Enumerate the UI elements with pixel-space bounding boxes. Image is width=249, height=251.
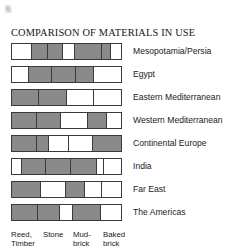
bar-segment-blank bbox=[94, 67, 121, 82]
bar-segment-blank bbox=[102, 182, 121, 197]
bar-segment-blank bbox=[104, 159, 121, 174]
legend-item: Mud- brick bbox=[73, 230, 91, 249]
material-bar bbox=[11, 158, 122, 175]
chart-row: Western Mediterranean bbox=[11, 112, 238, 135]
material-bar bbox=[11, 135, 122, 152]
chart-legend: Reed, TimberStoneMud- brickBaked brick bbox=[11, 230, 131, 251]
page-title: COMPARISON OF MATERIALS IN USE bbox=[11, 27, 195, 38]
chart-row: India bbox=[11, 158, 238, 181]
bar-segment-blank bbox=[12, 159, 22, 174]
bar-segment-filled bbox=[48, 44, 63, 59]
bar-segment-blank bbox=[60, 205, 73, 220]
bar-segment-filled bbox=[12, 136, 37, 151]
bar-segment-filled bbox=[52, 67, 76, 82]
chart-row: Egypt bbox=[11, 66, 238, 89]
bar-segment-filled bbox=[66, 182, 85, 197]
bar-segment-filled bbox=[46, 159, 71, 174]
material-bar bbox=[11, 89, 122, 106]
material-bar bbox=[11, 43, 122, 60]
bar-segment-blank bbox=[67, 90, 94, 105]
bar-segment-filled bbox=[93, 136, 121, 151]
bar-segment-blank bbox=[49, 136, 69, 151]
region-label: Far East bbox=[133, 181, 165, 198]
bar-segment-filled bbox=[29, 67, 52, 82]
bar-segment-blank bbox=[12, 44, 32, 59]
region-label: India bbox=[133, 158, 152, 175]
region-label: Western Mediterranean bbox=[133, 112, 223, 129]
bar-segment-filled bbox=[12, 90, 39, 105]
bar-segment-blank bbox=[12, 67, 29, 82]
bar-segment-filled bbox=[37, 136, 49, 151]
bar-segment-blank bbox=[61, 113, 88, 128]
bar-segment-blank bbox=[111, 44, 121, 59]
bar-segment-filled bbox=[71, 159, 97, 174]
bar-segment-filled bbox=[73, 205, 101, 220]
material-bar bbox=[11, 66, 122, 83]
region-label: The Americas bbox=[133, 204, 186, 221]
bar-segment-filled bbox=[38, 205, 60, 220]
chart-row: Eastern Mediterranean bbox=[11, 89, 238, 112]
material-bar bbox=[11, 181, 122, 198]
bar-segment-filled bbox=[12, 205, 38, 220]
bar-segment-filled bbox=[76, 67, 93, 82]
region-label: Mesopotamia/Persia bbox=[133, 43, 211, 60]
bar-segment-blank bbox=[63, 44, 75, 59]
chart-plot-area: Mesopotamia/PersiaEgyptEastern Mediterra… bbox=[11, 43, 238, 227]
region-label: Continental Europe bbox=[133, 135, 207, 152]
bar-segment-filled bbox=[12, 182, 41, 197]
legend-item: Reed, Timber bbox=[11, 230, 35, 249]
material-bar bbox=[11, 204, 122, 221]
region-label: Eastern Mediterranean bbox=[133, 89, 220, 106]
chart-row: Far East bbox=[11, 181, 238, 204]
bar-segment-blank bbox=[107, 113, 121, 128]
bar-segment-filled bbox=[12, 113, 37, 128]
bar-segment-filled bbox=[75, 44, 102, 59]
bar-segment-filled bbox=[22, 159, 46, 174]
bar-segment-blank bbox=[94, 90, 121, 105]
bar-segment-blank bbox=[41, 182, 66, 197]
legend-item: Stone bbox=[43, 230, 63, 239]
comparison-of-materials-figure: COMPARISON OF MATERIALS IN USE Mesopotam… bbox=[0, 0, 249, 251]
bar-segment-blank bbox=[69, 136, 93, 151]
bar-segment-filled bbox=[32, 44, 48, 59]
chart-row: Mesopotamia/Persia bbox=[11, 43, 238, 66]
bar-segment-filled bbox=[39, 90, 66, 105]
bar-segment-blank bbox=[101, 205, 121, 220]
bar-segment-filled bbox=[102, 44, 111, 59]
chart-row: The Americas bbox=[11, 204, 238, 227]
bar-segment-filled bbox=[37, 113, 61, 128]
bar-segment-blank bbox=[85, 182, 102, 197]
legend-item: Baked brick bbox=[103, 230, 125, 249]
chart-row: Continental Europe bbox=[11, 135, 238, 158]
material-bar bbox=[11, 112, 122, 129]
region-label: Egypt bbox=[133, 66, 155, 83]
bar-segment-filled bbox=[88, 113, 107, 128]
